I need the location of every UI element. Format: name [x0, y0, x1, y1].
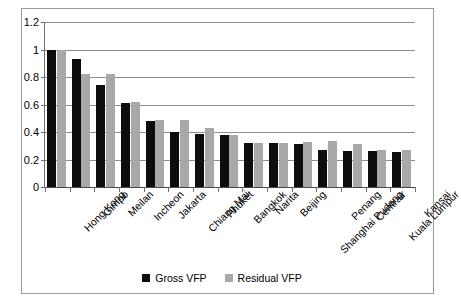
bar	[205, 128, 214, 187]
bar-group	[144, 22, 169, 187]
bar	[318, 150, 327, 187]
y-tick-label: 0	[5, 187, 39, 188]
plot-area: 00.20.40.60.811.2	[45, 22, 425, 187]
bar-group	[292, 22, 317, 187]
legend-label-residual-vfp: Residual VFP	[238, 272, 302, 284]
bar	[392, 152, 401, 187]
bar	[402, 150, 411, 187]
bar	[131, 102, 140, 187]
bar	[106, 74, 115, 187]
y-tick-label: 1	[5, 50, 39, 51]
legend-item-residual-vfp: Residual VFP	[225, 272, 302, 284]
legend-label-gross-vfp: Gross VFP	[155, 272, 206, 284]
bar	[254, 143, 263, 187]
legend-item-gross-vfp: Gross VFP	[142, 272, 206, 284]
bar	[146, 121, 155, 187]
bar	[170, 132, 179, 187]
bar	[368, 151, 377, 187]
bar-group	[94, 22, 119, 187]
bar	[269, 143, 278, 187]
bar-group	[168, 22, 193, 187]
bar-group	[316, 22, 341, 187]
bar	[353, 144, 362, 187]
bar-group	[242, 22, 267, 187]
bar	[343, 151, 352, 187]
bar	[303, 142, 312, 187]
bar	[180, 120, 189, 187]
legend-swatch-residual-vfp	[225, 274, 233, 282]
bar-group	[218, 22, 243, 187]
bar-group	[119, 22, 144, 187]
bar	[195, 134, 204, 187]
bar	[377, 150, 386, 187]
y-tick-label: 0.6	[5, 105, 39, 106]
x-axis-category-labels: Hong KongGimpoMeilanIncheonJakartaChiang…	[45, 188, 425, 268]
bar	[81, 74, 90, 187]
bar	[121, 103, 130, 187]
bar	[294, 144, 303, 187]
bar-group	[45, 22, 70, 187]
bar	[47, 50, 56, 188]
bar	[72, 59, 81, 187]
y-tick-label: 0.2	[5, 160, 39, 161]
legend-swatch-gross-vfp	[142, 274, 150, 282]
x-axis-label: Beijing	[298, 188, 329, 219]
y-tick-label: 0.8	[5, 77, 39, 78]
y-tick-label: 1.2	[5, 22, 39, 23]
y-tick-label: 0.4	[5, 132, 39, 133]
bar-group	[193, 22, 218, 187]
bar-group	[70, 22, 95, 187]
bar	[96, 85, 105, 187]
bar-group	[390, 22, 415, 187]
bar	[328, 141, 337, 187]
bar	[279, 143, 288, 187]
chart-legend: Gross VFP Residual VFP	[0, 272, 444, 284]
bar-group	[341, 22, 366, 187]
bar-group	[366, 22, 391, 187]
bar-series-container	[45, 22, 415, 187]
bar	[220, 135, 229, 187]
bar	[155, 120, 164, 187]
bar	[244, 143, 253, 187]
bar	[229, 135, 238, 187]
bar	[57, 50, 66, 188]
bar-group	[267, 22, 292, 187]
